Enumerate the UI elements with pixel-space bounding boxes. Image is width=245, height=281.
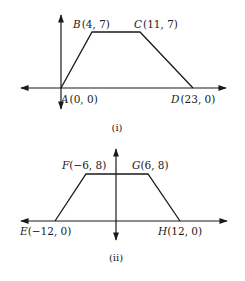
- label-g: G(6, 8): [132, 159, 169, 171]
- trapezoid-efgh: [55, 174, 180, 221]
- label-f: F(−6, 8): [61, 159, 106, 171]
- trapezoid-diagrams: B(4, 7) C(11, 7) A(0, 0) D(23, 0) (i) F(…: [0, 0, 245, 281]
- label-c: C(11, 7): [134, 18, 178, 30]
- caption-i: (i): [111, 122, 122, 133]
- figure-ii: F(−6, 8) G(6, 8) E(−12, 0) H(12, 0) (ii): [19, 149, 227, 263]
- label-d: D(23, 0): [170, 93, 215, 105]
- trapezoid-abcd: [61, 32, 193, 88]
- label-h: H(12, 0): [157, 225, 202, 237]
- label-e: E(−12, 0): [19, 225, 71, 237]
- label-b: B(4, 7): [72, 18, 110, 30]
- label-a: A(0, 0): [60, 93, 98, 105]
- figure-i: B(4, 7) C(11, 7) A(0, 0) D(23, 0) (i): [21, 15, 226, 133]
- caption-ii: (ii): [109, 252, 123, 263]
